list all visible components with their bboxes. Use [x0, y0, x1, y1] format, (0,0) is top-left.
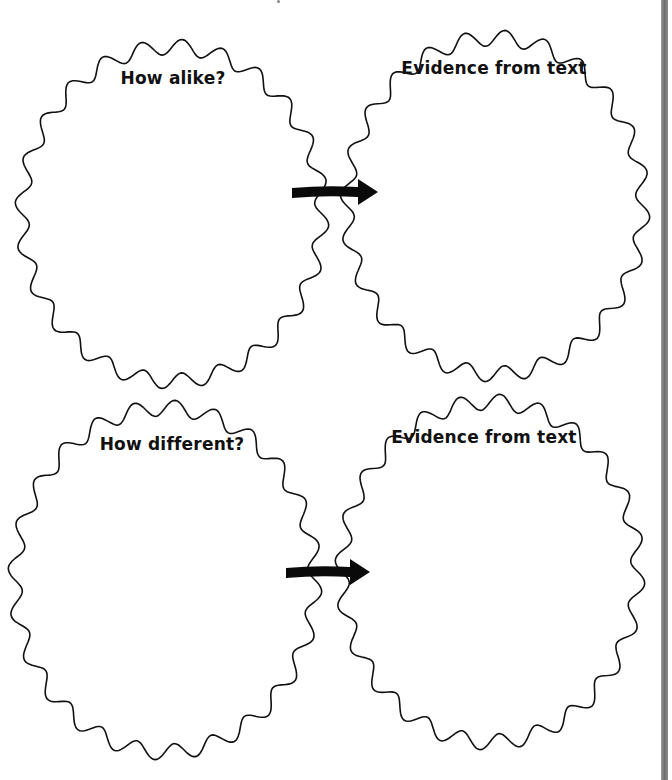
evidence-alike-title: Evidence from text	[401, 58, 586, 78]
evidence-different-bubble[interactable]	[335, 394, 644, 749]
evidence-different-title: Evidence from text	[391, 427, 576, 447]
how-different-title: How different?	[100, 434, 245, 454]
graphic-organizer-canvas	[0, 0, 672, 780]
evidence-alike-bubble[interactable]	[340, 30, 649, 381]
row-alike	[15, 30, 649, 388]
how-alike-title: How alike?	[121, 68, 226, 88]
page-edge-bar	[661, 0, 668, 780]
page-mark	[277, 0, 280, 3]
how-different-bubble[interactable]	[8, 400, 321, 759]
how-alike-bubble[interactable]	[15, 40, 328, 389]
